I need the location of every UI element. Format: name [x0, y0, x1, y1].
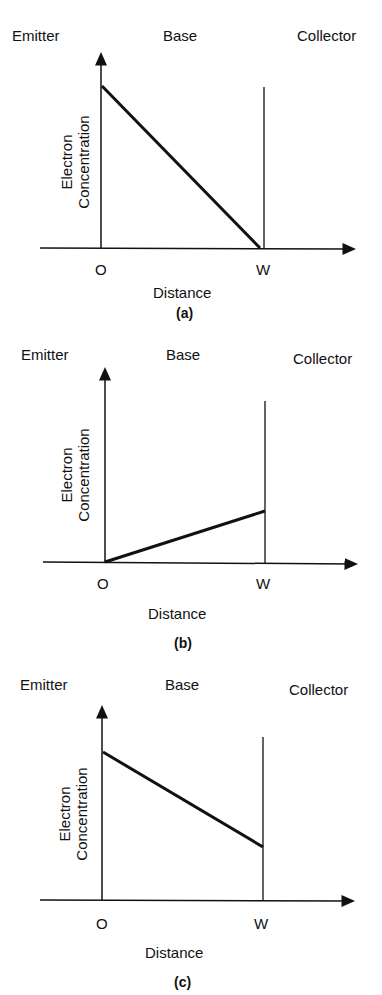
- panel-c-collector-label: Collector: [289, 681, 348, 698]
- panel-c-caption: (c): [174, 974, 191, 990]
- panel-a-collector-label: Collector: [297, 27, 356, 44]
- panel-a-x-axis-label: Distance: [153, 284, 211, 301]
- panel-a-emitter-label: Emitter: [12, 27, 60, 44]
- panel-b-base-label: Base: [166, 346, 200, 363]
- panel-b-caption: (b): [174, 635, 192, 651]
- panel-b-tick-w: W: [256, 575, 270, 592]
- panel-b-x-axis-label: Distance: [148, 605, 206, 622]
- panel-b-tick-origin: O: [97, 575, 109, 592]
- panel-b-emitter-label: Emitter: [21, 346, 69, 363]
- panel-a-concentration-line: [102, 86, 260, 248]
- panel-c-x-axis-label: Distance: [145, 944, 203, 961]
- panel-c-concentration-line: [103, 752, 263, 847]
- panel-c-tick-origin: O: [96, 915, 108, 932]
- panel-a-y-axis-label: ElectronConcentration: [58, 107, 92, 217]
- panel-c-emitter-label: Emitter: [20, 676, 68, 693]
- panel-b-concentration-line: [105, 511, 265, 562]
- panel-b-collector-label: Collector: [293, 350, 352, 367]
- panel-c-base-label: Base: [165, 676, 199, 693]
- panel-a-tick-w: W: [256, 261, 270, 278]
- panel-a-base-label: Base: [163, 27, 197, 44]
- panel-a-tick-origin: O: [95, 261, 107, 278]
- panel-b-y-axis-label: ElectronConcentration: [58, 410, 92, 540]
- panel-c-tick-w: W: [254, 915, 268, 932]
- panel-a-caption: (a): [176, 305, 193, 321]
- panel-c-y-axis-label: ElectronConcentration: [56, 749, 90, 879]
